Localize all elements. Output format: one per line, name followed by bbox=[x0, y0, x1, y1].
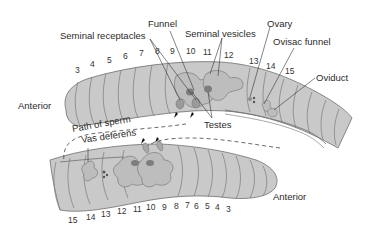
bottom-segment-number: 8 bbox=[174, 202, 179, 211]
label-ovisac-funnel: Ovisac funnel bbox=[273, 37, 331, 47]
bottom-segment-number: 7 bbox=[185, 201, 190, 210]
arrow-icon bbox=[190, 112, 194, 118]
top-segment-number: 8 bbox=[155, 47, 160, 56]
bottom-segment-number: 15 bbox=[68, 216, 77, 225]
bottom-segment-number: 12 bbox=[117, 207, 126, 216]
label-funnel: Funnel bbox=[148, 19, 177, 29]
top-segment-number: 14 bbox=[266, 62, 275, 71]
top-segment-number: 10 bbox=[186, 47, 195, 56]
bottom-segment-number: 11 bbox=[133, 205, 142, 214]
top-segment-number: 13 bbox=[249, 57, 258, 66]
top-segment-number: 5 bbox=[107, 56, 112, 65]
label-seminal-receptacles: Seminal receptacles bbox=[60, 31, 146, 41]
bottom-segment-number: 10 bbox=[146, 203, 155, 212]
top-segment-number: 11 bbox=[203, 48, 212, 57]
top-segment-number: 12 bbox=[224, 51, 233, 60]
label-seminal-vesicles: Seminal vesicles bbox=[185, 29, 256, 39]
top-segment-number: 3 bbox=[75, 66, 80, 75]
top-segment-number: 9 bbox=[170, 47, 175, 56]
label-ovary: Ovary bbox=[267, 19, 292, 29]
bottom-worm bbox=[50, 141, 277, 211]
bottom-segment-number: 4 bbox=[215, 203, 220, 212]
bottom-segment-number: 6 bbox=[194, 202, 199, 211]
top-segment-number: 4 bbox=[90, 60, 95, 69]
label-anterior-bottom: Anterior bbox=[273, 192, 306, 202]
bottom-segment-number: 3 bbox=[226, 205, 231, 214]
label-testes: Testes bbox=[204, 120, 231, 130]
top-segment-number: 15 bbox=[285, 67, 294, 76]
bottom-segment-number: 14 bbox=[86, 213, 95, 222]
label-oviduct: Oviduct bbox=[316, 73, 348, 83]
label-anterior-top: Anterior bbox=[18, 101, 51, 111]
bottom-segment-number: 13 bbox=[101, 210, 110, 219]
top-segment-number: 6 bbox=[123, 52, 128, 61]
bottom-segment-number: 5 bbox=[205, 202, 210, 211]
bottom-segment-number: 9 bbox=[162, 203, 167, 212]
top-segment-number: 7 bbox=[139, 49, 144, 58]
